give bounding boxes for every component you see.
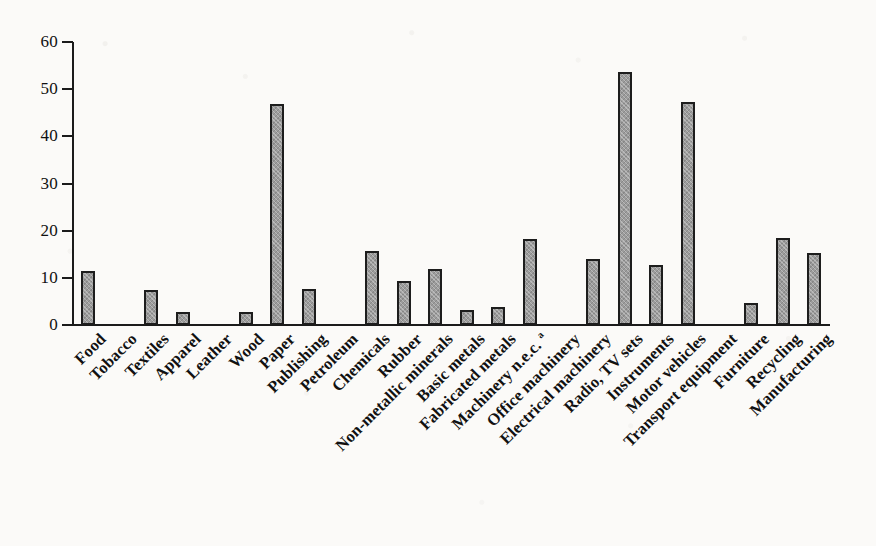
bar <box>302 289 316 325</box>
y-axis-tick-value: 60 <box>20 33 58 50</box>
bar <box>144 290 158 325</box>
bar-chart: 0102030405060 FoodTobaccoTextilesApparel… <box>0 0 876 546</box>
bar <box>176 312 190 325</box>
bar <box>365 251 379 325</box>
y-axis-tick-label: 30 <box>14 175 58 192</box>
y-axis-tick-label: 0 <box>14 316 58 333</box>
chart-page: 0102030405060 FoodTobaccoTextilesApparel… <box>0 0 876 546</box>
y-axis-tick-label: 10 <box>14 269 58 286</box>
bar <box>649 265 663 325</box>
bar <box>239 312 253 325</box>
y-axis-tick-value: 10 <box>20 269 58 286</box>
y-axis-tick-value: 40 <box>20 127 58 144</box>
x-axis-labels: FoodTobaccoTextilesApparelLeatherWoodPap… <box>72 330 876 546</box>
bar <box>744 303 758 325</box>
bar <box>81 271 95 325</box>
bar <box>523 239 537 325</box>
y-axis-tick-label: 40 <box>14 127 58 144</box>
bar <box>397 281 411 325</box>
y-axis-tick-value: 0 <box>20 316 58 333</box>
bar <box>491 307 505 325</box>
bar <box>270 104 284 325</box>
bar <box>807 253 821 325</box>
y-axis-tick-value: 20 <box>20 222 58 239</box>
y-axis-tick-value: 50 <box>20 80 58 97</box>
y-axis-tick-label: 20 <box>14 222 58 239</box>
bar <box>460 310 474 325</box>
y-axis-tick-label: 50 <box>14 80 58 97</box>
bar <box>618 72 632 325</box>
bar <box>776 238 790 325</box>
bars-group <box>72 42 830 325</box>
bar <box>681 102 695 325</box>
bar <box>428 269 442 325</box>
y-axis-tick-label: 60 <box>14 33 58 50</box>
bar <box>586 259 600 326</box>
y-axis-tick-value: 30 <box>20 175 58 192</box>
